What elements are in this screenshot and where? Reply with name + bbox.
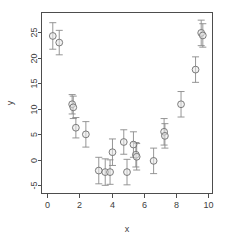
data-point bbox=[150, 157, 157, 164]
y-tick-label: 15 bbox=[29, 78, 39, 88]
y-axis-ticks: -50510152025 bbox=[29, 27, 42, 189]
x-tick-label: 2 bbox=[77, 200, 82, 210]
scatter-plot-svg: -50510152025 0246810 x y bbox=[0, 0, 231, 240]
data-point bbox=[82, 131, 89, 138]
x-axis-ticks: 0246810 bbox=[45, 194, 214, 210]
x-tick-label: 4 bbox=[110, 200, 115, 210]
data-point bbox=[124, 169, 131, 176]
data-point bbox=[49, 33, 56, 40]
y-tick-label: 5 bbox=[29, 132, 39, 137]
data-point bbox=[133, 153, 140, 160]
data-point bbox=[120, 139, 127, 146]
data-point bbox=[72, 124, 79, 131]
x-tick-label: 6 bbox=[142, 200, 147, 210]
y-tick-label: -5 bbox=[29, 181, 39, 189]
y-tick-label: 20 bbox=[29, 53, 39, 63]
x-axis-label: x bbox=[125, 224, 130, 234]
x-tick-label: 0 bbox=[45, 200, 50, 210]
data-point bbox=[107, 169, 114, 176]
y-tick-label: 25 bbox=[29, 27, 39, 37]
y-axis-label: y bbox=[5, 100, 15, 105]
data-point bbox=[95, 167, 102, 174]
y-tick-label: 0 bbox=[29, 158, 39, 163]
y-tick-label: 10 bbox=[29, 104, 39, 114]
chart-figure: -50510152025 0246810 x y bbox=[0, 0, 231, 240]
data-point bbox=[130, 141, 137, 148]
x-tick-label: 10 bbox=[203, 200, 213, 210]
data-point bbox=[162, 132, 169, 139]
data-point bbox=[178, 101, 185, 108]
data-point bbox=[56, 39, 63, 46]
data-point bbox=[192, 66, 199, 73]
data-point bbox=[109, 149, 116, 156]
data-point bbox=[199, 32, 206, 39]
data-points-group bbox=[49, 29, 206, 175]
x-tick-label: 8 bbox=[174, 200, 179, 210]
data-point bbox=[70, 104, 77, 111]
